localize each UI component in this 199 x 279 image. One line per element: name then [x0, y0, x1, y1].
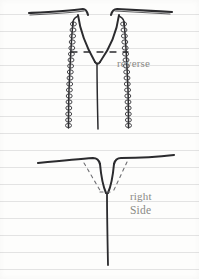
figure-reverse-view: [29, 9, 172, 129]
thread-coils-right: [121, 22, 132, 128]
side-notch-edge-right: [108, 164, 114, 193]
side-notch-edge-left: [100, 164, 106, 193]
notch-edge-left: [78, 15, 95, 62]
dashed-guide-right: [113, 162, 127, 192]
side-head-bar-right: [114, 155, 174, 164]
center-stem: [97, 63, 98, 129]
label-reverse: reverse: [117, 57, 150, 69]
side-center-stem: [107, 193, 108, 265]
figure-right-side-view: [38, 155, 174, 265]
pen-sketch-layer: [0, 0, 199, 279]
label-side: Side: [130, 204, 151, 216]
notebook-page: reverse right Side: [0, 0, 199, 279]
notch-edge-right: [100, 15, 119, 62]
dashed-guide-left: [84, 163, 101, 192]
label-right: right: [130, 190, 152, 202]
side-head-bar-left: [38, 158, 100, 164]
thread-coils-left: [66, 22, 77, 128]
